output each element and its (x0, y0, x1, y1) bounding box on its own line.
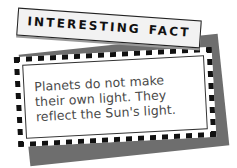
header-word-fact: FACT (148, 23, 191, 40)
header-word-interesting: INTERESTING (27, 14, 141, 36)
fact-header-title: INTERESTINGFACT (24, 14, 195, 40)
fact-box-illustration: Planets do not make their own light. The… (0, 0, 237, 168)
fact-card: Planets do not make their own light. The… (14, 47, 216, 147)
fact-body-text: Planets do not make their own light. The… (34, 70, 206, 124)
fact-card-inner: Planets do not make their own light. The… (22, 55, 208, 138)
fact-header-label: INTERESTINGFACT (16, 8, 202, 49)
